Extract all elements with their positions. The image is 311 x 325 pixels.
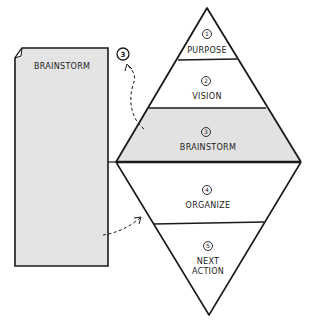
svg-text:5: 5 bbox=[206, 242, 210, 249]
svg-text:VISION: VISION bbox=[192, 92, 221, 101]
svg-text:4: 4 bbox=[205, 186, 209, 193]
divider-purpose-vision bbox=[178, 59, 237, 60]
svg-text:3: 3 bbox=[204, 128, 208, 135]
stage-vision: 2 VISION bbox=[192, 77, 221, 102]
svg-text:1: 1 bbox=[205, 30, 209, 37]
divider-organize-nextaction bbox=[153, 222, 264, 224]
svg-text:ORGANIZE: ORGANIZE bbox=[186, 201, 231, 210]
callout-badge: 3 bbox=[117, 48, 129, 60]
folded-corner-icon bbox=[15, 48, 22, 58]
stage-purpose: 1 PURPOSE bbox=[187, 30, 227, 56]
svg-text:BRAINSTORM: BRAINSTORM bbox=[180, 143, 236, 152]
brainstorm-page: BRAINSTORM bbox=[15, 48, 108, 266]
svg-text:2: 2 bbox=[204, 77, 208, 84]
svg-text:ACTION: ACTION bbox=[192, 267, 224, 276]
stage-next-action: 5 NEXT ACTION bbox=[192, 242, 224, 277]
svg-text:PURPOSE: PURPOSE bbox=[187, 46, 227, 55]
svg-text:3: 3 bbox=[121, 51, 126, 59]
planning-diagram: BRAINSTORM 1 PURPOSE 2 VISION 3 BRAINSTO… bbox=[0, 0, 311, 325]
svg-text:NEXT: NEXT bbox=[197, 257, 219, 266]
arrowhead-icon bbox=[125, 64, 132, 71]
page-title: BRAINSTORM bbox=[34, 62, 90, 71]
stage-organize: 4 ORGANIZE bbox=[186, 186, 231, 211]
